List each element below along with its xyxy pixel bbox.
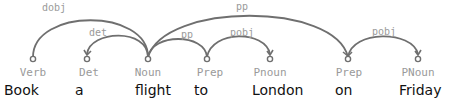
node-to bbox=[204, 56, 209, 61]
arc-det bbox=[87, 36, 148, 57]
word-flight: flight bbox=[135, 82, 171, 98]
rel-label-det: det bbox=[89, 27, 107, 38]
rel-label-pobj-friday: pobj bbox=[372, 26, 396, 37]
pos-tag-a: Det bbox=[79, 66, 99, 79]
rel-label-pp-large: pp bbox=[236, 1, 248, 12]
arc-pobj-to-london bbox=[207, 36, 270, 57]
pos-tag-london: Pnoun bbox=[253, 66, 286, 79]
word-a: a bbox=[75, 82, 84, 98]
pos-tag-flight: Noun bbox=[135, 66, 162, 79]
pos-tag-on: Prep bbox=[336, 66, 363, 79]
word-book: Book bbox=[4, 82, 40, 98]
rel-label-pobj-london: pobj bbox=[230, 27, 254, 38]
word-on: on bbox=[335, 82, 352, 98]
node-friday bbox=[415, 56, 420, 61]
dependency-parse-diagram: dobj det pp pobj pp pobj Verb Det Noun P… bbox=[0, 0, 455, 102]
node-flight bbox=[145, 56, 150, 61]
node-book bbox=[30, 56, 35, 61]
pos-tag-to: Prep bbox=[197, 66, 224, 79]
arc-pobj-on-friday bbox=[348, 36, 418, 57]
pos-tag-friday: PNoun bbox=[401, 66, 434, 79]
rel-label-dobj: dobj bbox=[42, 2, 66, 13]
word-friday: Friday bbox=[399, 82, 441, 98]
rel-label-pp-small: pp bbox=[181, 29, 193, 40]
pos-tag-book: Verb bbox=[20, 66, 47, 79]
word-london: London bbox=[252, 82, 303, 98]
node-on bbox=[345, 56, 350, 61]
word-to: to bbox=[194, 82, 208, 98]
node-a bbox=[84, 56, 89, 61]
node-london bbox=[267, 56, 272, 61]
